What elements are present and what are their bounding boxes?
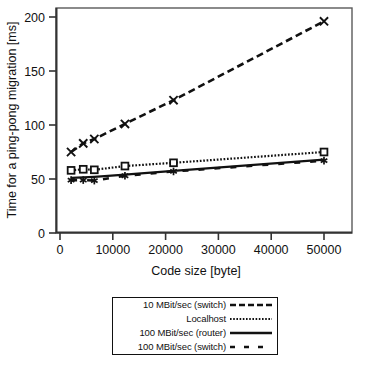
legend-entry-10mbit-switch: 10 MBit/sec (switch)	[113, 299, 277, 313]
x-tick-label: 50000	[307, 243, 342, 257]
legend-swatch-dotted	[230, 314, 272, 324]
y-tick-label: 200	[24, 11, 45, 25]
x-tick-label: 0	[57, 243, 64, 257]
chart-legend: 10 MBit/sec (switch) Localhost 100 MBit/…	[112, 297, 278, 355]
legend-label: 100 MBit/sec (switch)	[138, 342, 226, 352]
legend-label: 100 MBit/sec (router)	[139, 328, 226, 338]
x-axis-title: Code size [byte]	[151, 264, 241, 278]
chart-figure: 200 150 100 50 0 0 10000 20000 30000	[0, 0, 366, 376]
x-tick-labels: 0 10000 20000 30000 40000 50000	[57, 243, 342, 257]
x-tick-label: 30000	[201, 243, 236, 257]
legend-label: Localhost	[186, 314, 226, 324]
chart-svg: 200 150 100 50 0 0 10000 20000 30000	[0, 0, 366, 290]
y-axis-title: Time for a ping-pong migration [ms]	[5, 22, 19, 219]
y-tick-label: 100	[24, 119, 45, 133]
legend-swatch-dashed	[230, 300, 272, 310]
x-tick-label: 40000	[254, 243, 289, 257]
y-tick-label: 50	[31, 173, 45, 187]
legend-swatch-long-dash	[230, 342, 272, 352]
x-tick-label: 10000	[95, 243, 130, 257]
data-series-layer	[67, 17, 328, 184]
legend-entry-localhost: Localhost	[113, 313, 277, 327]
x-tick-label: 20000	[148, 243, 183, 257]
y-tick-label: 150	[24, 65, 45, 79]
series-0	[67, 17, 328, 156]
y-axis-ticks	[49, 17, 56, 233]
legend-entry-100mbit-switch: 100 MBit/sec (switch)	[113, 341, 277, 355]
plot-frame	[56, 8, 352, 233]
legend-label: 10 MBit/sec (switch)	[143, 300, 226, 310]
y-tick-label: 0	[38, 227, 45, 241]
x-axis-ticks	[60, 233, 324, 240]
legend-swatch-solid	[230, 328, 272, 338]
plot-area: 200 150 100 50 0 0 10000 20000 30000	[0, 0, 366, 290]
y-tick-labels: 200 150 100 50 0	[24, 11, 45, 241]
legend-entry-100mbit-router: 100 MBit/sec (router)	[113, 327, 277, 341]
